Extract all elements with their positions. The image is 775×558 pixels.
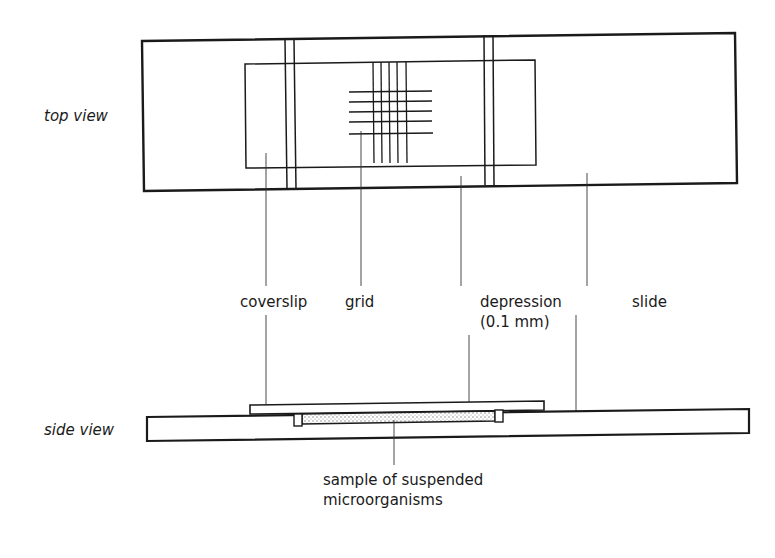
grid-label: grid	[345, 293, 374, 311]
right-depression-channel	[484, 35, 494, 185]
top-view-label: top view	[44, 107, 109, 125]
grid-horizontal-lines	[349, 91, 433, 134]
slide-label: slide	[632, 293, 667, 311]
sample-label-line2: microorganisms	[323, 491, 443, 509]
side-view-label: side view	[44, 421, 115, 439]
left-depression-channel	[285, 40, 296, 189]
left-support	[294, 414, 302, 426]
depression-depth-label: (0.1 mm)	[480, 313, 550, 331]
top-leader-lines	[266, 131, 587, 286]
right-support	[495, 410, 503, 422]
sample-label-line1: sample of suspended	[323, 471, 483, 489]
slide-top-outline	[142, 33, 737, 191]
top-view	[142, 33, 737, 191]
depression-label: depression	[480, 293, 562, 311]
sample-chamber	[302, 411, 495, 424]
coverslip-label: coverslip	[240, 293, 307, 311]
counting-chamber-diagram: top view side view coverslip grid depres…	[0, 0, 775, 558]
side-view	[147, 401, 749, 441]
grid-vertical-lines	[373, 62, 407, 163]
